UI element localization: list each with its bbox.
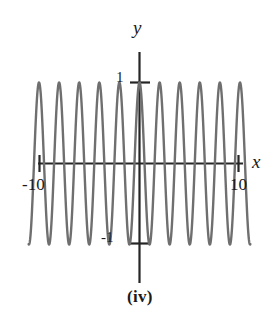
y-tick-label-negative-one: -1 xyxy=(101,230,114,245)
y-tick-label-positive-one: 1 xyxy=(116,70,124,85)
x-tick-label-ten: 10 xyxy=(230,176,247,193)
figure-panel: y x 1 -1 -10 10 (iv) xyxy=(0,0,277,328)
x-tick-label-minus-ten: -10 xyxy=(22,176,45,193)
y-axis-label: y xyxy=(133,18,141,37)
plot-canvas xyxy=(0,0,277,328)
figure-caption: (iv) xyxy=(127,288,153,305)
x-axis-label: x xyxy=(252,152,260,171)
